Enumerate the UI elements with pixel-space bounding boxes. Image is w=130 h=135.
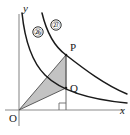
curve-label-1-text: ㉖ [34,28,42,37]
shaded-triangle-opq [19,55,66,110]
y-axis-label: y [22,2,28,14]
x-axis-label: x [119,104,125,116]
origin-label: O [9,112,17,124]
point-q-label: Q [70,82,78,94]
point-p-label: P [70,41,76,53]
right-angle-marker [59,103,66,110]
point-p-marker [65,54,68,57]
curve-label-2-text: ㉗ [52,21,60,30]
hyperbola-figure: ㉖ ㉗ y x O P Q [0,0,130,135]
figure-container: ㉖ ㉗ y x O P Q [0,0,130,135]
point-q-marker [65,87,68,90]
